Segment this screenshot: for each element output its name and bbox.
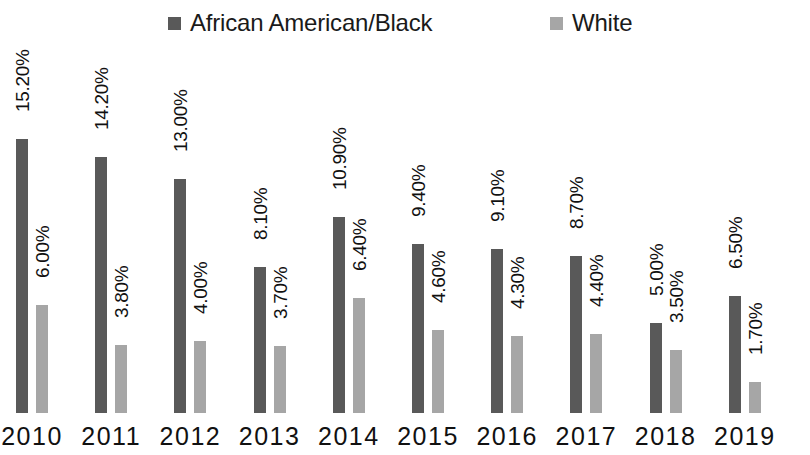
bar-wrap: 8.10%: [254, 267, 266, 413]
bar-wrap: 3.80%: [115, 345, 127, 414]
bar-value-label: 1.70%: [745, 303, 764, 355]
bar[interactable]: [16, 139, 28, 413]
x-axis-tick-label: 2010: [0, 421, 72, 451]
bar[interactable]: [412, 244, 424, 413]
x-axis-tick-label: 2011: [71, 421, 151, 451]
bar-value-label: 4.40%: [587, 254, 606, 306]
bar-wrap: 6.40%: [353, 298, 365, 413]
bar-wrap: 4.60%: [432, 330, 444, 413]
plot-area: 15.20%6.00%14.20%3.80%13.00%4.00%8.10%3.…: [0, 0, 810, 413]
bar-wrap: 9.40%: [412, 244, 424, 413]
bar-group: 8.10%3.70%: [254, 0, 287, 413]
bar-value-label: 6.40%: [349, 218, 368, 270]
x-axis-tick-label: 2014: [309, 421, 389, 451]
bar-value-label: 6.00%: [33, 225, 52, 277]
x-axis-tick-label: 2013: [230, 421, 310, 451]
x-axis-tick-label: 2016: [467, 421, 547, 451]
bar-wrap: 4.40%: [590, 334, 602, 413]
bar-value-label: 4.30%: [508, 256, 527, 308]
bar-wrap: 6.00%: [36, 305, 48, 413]
bar-value-label: 3.80%: [112, 265, 131, 317]
bar[interactable]: [254, 267, 266, 413]
x-axis-tick-label: 2019: [705, 421, 785, 451]
bar-wrap: 9.10%: [491, 249, 503, 413]
bar-group: 9.40%4.60%: [412, 0, 445, 413]
bar-group: 14.20%3.80%: [95, 0, 128, 413]
bar-wrap: 15.20%: [16, 139, 28, 413]
bar[interactable]: [115, 345, 127, 414]
bar[interactable]: [432, 330, 444, 413]
bar-group: 9.10%4.30%: [491, 0, 524, 413]
bar-value-label: 8.10%: [250, 188, 269, 240]
bar-value-label: 3.70%: [270, 267, 289, 319]
bar-value-label: 10.90%: [329, 127, 348, 190]
bar-group: 8.70%4.40%: [570, 0, 603, 413]
x-axis-tick-label: 2017: [546, 421, 626, 451]
bar-chart: African American/Black White 15.20%6.00%…: [0, 0, 810, 455]
bar-value-label: 8.70%: [567, 177, 586, 229]
bar-value-label: 4.60%: [429, 251, 448, 303]
bar-wrap: 8.70%: [570, 256, 582, 413]
bar-wrap: 4.30%: [511, 336, 523, 414]
bar-value-label: 15.20%: [13, 49, 32, 112]
bar[interactable]: [353, 298, 365, 413]
bar-wrap: 5.00%: [650, 323, 662, 413]
bar[interactable]: [194, 341, 206, 413]
x-axis-tick-label: 2018: [626, 421, 706, 451]
bar[interactable]: [174, 179, 186, 413]
bar-value-label: 9.40%: [409, 164, 428, 216]
bar-wrap: 3.50%: [670, 350, 682, 413]
bar-wrap: 3.70%: [274, 346, 286, 413]
bar[interactable]: [749, 382, 761, 413]
bar[interactable]: [95, 157, 107, 413]
bar[interactable]: [36, 305, 48, 413]
x-axis-tick-label: 2012: [150, 421, 230, 451]
bar[interactable]: [491, 249, 503, 413]
bar-wrap: 13.00%: [174, 179, 186, 413]
bar-value-label: 14.20%: [92, 67, 111, 130]
bar-wrap: 6.50%: [729, 296, 741, 413]
bar-group: 5.00%3.50%: [650, 0, 683, 413]
bar[interactable]: [650, 323, 662, 413]
bar[interactable]: [333, 217, 345, 413]
bar-value-label: 13.00%: [171, 89, 190, 152]
x-axis: 2010201120122013201420152016201720182019: [0, 413, 810, 455]
bar-value-label: 4.00%: [191, 262, 210, 314]
bar[interactable]: [274, 346, 286, 413]
bar-wrap: 1.70%: [749, 382, 761, 413]
bar-wrap: 14.20%: [95, 157, 107, 413]
bar-wrap: 4.00%: [194, 341, 206, 413]
bar-value-label: 3.50%: [666, 271, 685, 323]
bar-group: 6.50%1.70%: [729, 0, 762, 413]
bar[interactable]: [729, 296, 741, 413]
bar-group: 10.90%6.40%: [333, 0, 366, 413]
bar-wrap: 10.90%: [333, 217, 345, 413]
bar-group: 13.00%4.00%: [174, 0, 207, 413]
bar[interactable]: [511, 336, 523, 414]
bar-value-label: 5.00%: [646, 244, 665, 296]
bar-value-label: 9.10%: [488, 170, 507, 222]
bar[interactable]: [670, 350, 682, 413]
bar-value-label: 6.50%: [725, 216, 744, 268]
bar[interactable]: [570, 256, 582, 413]
bar-group: 15.20%6.00%: [16, 0, 49, 413]
bar[interactable]: [590, 334, 602, 413]
x-axis-tick-label: 2015: [388, 421, 468, 451]
